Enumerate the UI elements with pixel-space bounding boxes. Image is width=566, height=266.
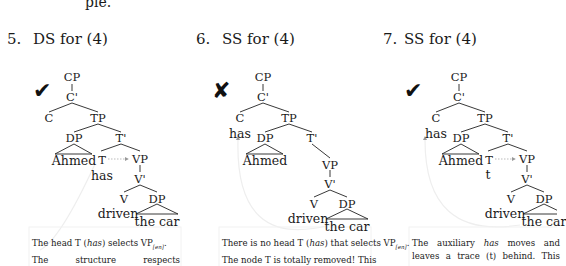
node-tbar: T' <box>307 132 318 144</box>
node-dp2: DP <box>536 193 553 205</box>
word-aux: has <box>91 169 113 182</box>
caption: There is no head T (has) that selects VP… <box>222 237 370 266</box>
node-tp: TP <box>477 112 492 124</box>
node-t: T <box>98 154 106 166</box>
node-dp: DP <box>257 132 274 144</box>
caption-line-2: The node T is totally removed! This <box>222 254 370 266</box>
node-vbar: V' <box>134 173 145 185</box>
node-dp: DP <box>66 132 83 144</box>
node-dp2: DP <box>339 198 356 210</box>
word-object: the car <box>325 220 370 233</box>
node-dp2: DP <box>149 193 166 205</box>
node-vbar: V' <box>324 178 335 190</box>
node-c: C <box>236 112 245 124</box>
word-object: the car <box>522 215 566 228</box>
word-subject: Ahmed <box>52 154 96 167</box>
node-cp: CP <box>64 71 81 83</box>
node-dp: DP <box>453 132 470 144</box>
node-v: V <box>310 198 318 210</box>
word-object: the car <box>135 215 180 228</box>
node-v: V <box>120 193 128 205</box>
node-c: C <box>45 112 54 124</box>
node-c: C <box>432 112 441 124</box>
word-subject: Ahmed <box>439 154 483 167</box>
word-aux: has <box>229 127 251 140</box>
caption-line-1: The head T (has) selects VP[en]. <box>32 237 180 254</box>
cross-mark-icon: ✘ <box>212 80 230 102</box>
node-cp: CP <box>451 71 468 83</box>
word-aux: has <box>425 127 447 140</box>
node-tbar: T' <box>503 132 514 144</box>
word-verb: driven <box>288 212 329 225</box>
node-vbar: V' <box>521 173 532 185</box>
example-title: DS for (4) <box>33 30 108 48</box>
node-t: T <box>485 154 493 166</box>
node-vp: VP <box>132 153 148 165</box>
example-title: SS for (4) <box>404 30 477 48</box>
example-number: 7. <box>383 30 397 48</box>
node-cbar: C' <box>453 91 465 103</box>
node-vp: VP <box>519 153 535 165</box>
node-tp: TP <box>281 112 296 124</box>
node-cp: CP <box>255 71 272 83</box>
node-tbar: T' <box>116 132 127 144</box>
caption: The head T (has) selects VP[en]. The str… <box>32 237 180 266</box>
node-v: V <box>507 193 515 205</box>
node-cbar: C' <box>66 91 78 103</box>
caption: The auxiliary has moves and leaves a tra… <box>412 237 560 263</box>
caption-line-1: The auxiliary has moves and <box>412 237 560 250</box>
check-mark-icon: ✔ <box>404 80 422 102</box>
word-verb: driven <box>485 207 526 220</box>
example-number: 6. <box>196 30 210 48</box>
node-vp: VP <box>322 159 338 171</box>
previous-text-fragment: ple. <box>85 0 111 10</box>
example-title: SS for (4) <box>222 30 295 48</box>
caption-line-2: leaves a trace (t) behind. This <box>412 250 560 263</box>
example-number: 5. <box>7 30 21 48</box>
word-subject: Ahmed <box>243 154 287 167</box>
word-trace: t <box>485 168 490 181</box>
node-tp: TP <box>90 112 105 124</box>
word-verb: driven <box>98 207 139 220</box>
node-cbar: C' <box>257 91 269 103</box>
caption-line-2: The structure respects <box>32 254 180 266</box>
caption-line-1: There is no head T (has) that selects VP… <box>222 237 370 254</box>
check-mark-icon: ✔ <box>33 80 51 102</box>
